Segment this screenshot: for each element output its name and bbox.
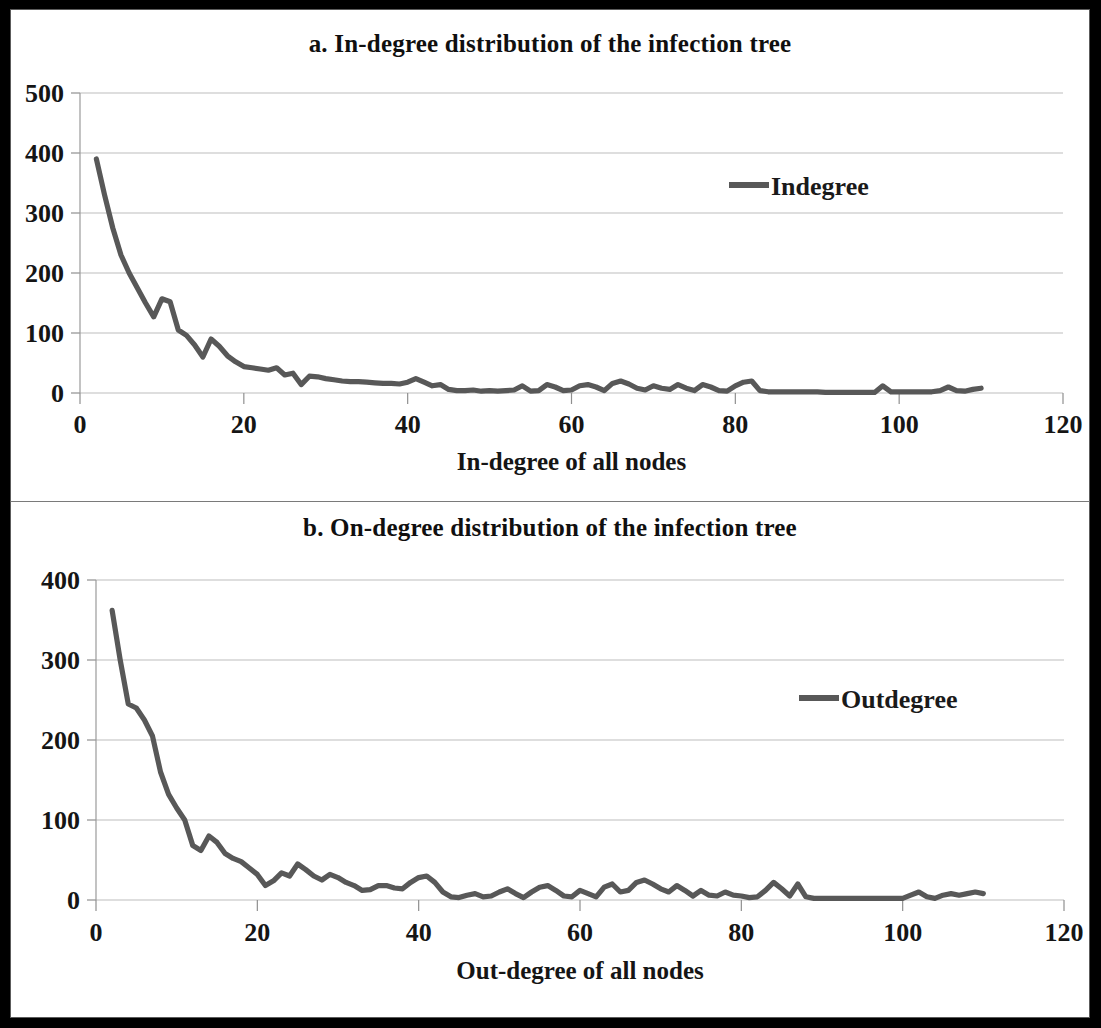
x-tick-label: 60 <box>567 918 593 947</box>
x-tick-label: 40 <box>395 410 421 439</box>
y-tick-label: 100 <box>25 319 64 348</box>
x-tick-label: 100 <box>883 918 922 947</box>
y-tick-label: 500 <box>25 79 64 108</box>
outdegree-plot: 0100200300400020406080100120Out-degree o… <box>11 502 1090 1017</box>
x-tick-label: 0 <box>74 410 87 439</box>
x-tick-label: 100 <box>880 410 919 439</box>
x-axis-title: Out-degree of all nodes <box>456 957 704 984</box>
y-tick-label: 200 <box>41 726 80 755</box>
y-tick-label: 400 <box>25 139 64 168</box>
x-tick-label: 120 <box>1045 918 1084 947</box>
y-tick-label: 0 <box>67 886 80 915</box>
y-tick-label: 400 <box>41 566 80 595</box>
y-tick-label: 300 <box>41 646 80 675</box>
y-tick-label: 200 <box>25 259 64 288</box>
chart-panel-outdegree: b. On-degree distribution of the infecti… <box>10 501 1090 1018</box>
x-tick-label: 120 <box>1044 410 1083 439</box>
x-tick-label: 80 <box>728 918 754 947</box>
legend-label: Indegree <box>771 172 869 201</box>
x-tick-label: 20 <box>244 918 270 947</box>
legend-label: Outdegree <box>841 685 958 714</box>
chart-panel-indegree: a. In-degree distribution of the infecti… <box>10 9 1090 501</box>
x-tick-label: 40 <box>406 918 432 947</box>
figure-frame: a. In-degree distribution of the infecti… <box>0 0 1101 1028</box>
y-tick-label: 300 <box>25 199 64 228</box>
y-tick-label: 0 <box>51 379 64 408</box>
y-tick-label: 100 <box>41 806 80 835</box>
indegree-plot: 0100200300400500020406080100120In-degree… <box>11 10 1090 500</box>
x-tick-label: 0 <box>90 918 103 947</box>
x-tick-label: 80 <box>722 410 748 439</box>
x-axis-title: In-degree of all nodes <box>457 448 687 475</box>
x-tick-label: 20 <box>231 410 257 439</box>
figure-inner: a. In-degree distribution of the infecti… <box>10 9 1090 1018</box>
series-line-outdegree <box>112 610 983 898</box>
x-tick-label: 60 <box>559 410 585 439</box>
